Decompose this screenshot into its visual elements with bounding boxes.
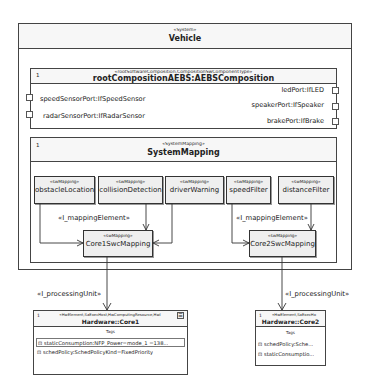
collapse-icon[interactable]: ☰ bbox=[177, 312, 184, 319]
tag-row[interactable]: ⊡ staticConsumptio... bbox=[258, 350, 323, 359]
hardware-core2-stereotype: «HwElement,SaExecHo bbox=[265, 313, 323, 317]
tag-icon: ⊡ bbox=[258, 341, 262, 347]
tag-static-consumption: staticConsumption:NFP_Power=mode_1 =138.… bbox=[44, 340, 168, 346]
tag-icon: ⊡ bbox=[38, 340, 42, 346]
hardware-core2-header: 1 «HwElement,SaExecHo Hardware::Core2 bbox=[256, 311, 325, 327]
tag-sched-policy: schedPolicy:SchedPolicyKind=FixedPriorit… bbox=[43, 349, 153, 355]
hardware-core1[interactable]: 1 «HwElement,SaExecHost,HwComputingResou… bbox=[33, 310, 188, 375]
tag-icon: ⊡ bbox=[258, 351, 262, 357]
tag-row[interactable]: ⊡ schedPolicy:SchedPolicyKind=FixedPrior… bbox=[36, 348, 185, 357]
tag-sched-policy: schedPolicy:Sche... bbox=[264, 341, 313, 347]
tag-static-consumption: staticConsumptio... bbox=[264, 351, 314, 357]
tag-row[interactable]: ⊡ schedPolicy:Sche... bbox=[258, 340, 323, 349]
hardware-core1-title: Hardware::Core1 bbox=[34, 319, 187, 325]
multiplicity: 1 bbox=[37, 313, 40, 318]
hardware-core2[interactable]: 1 «HwElement,SaExecHo Hardware::Core2 Ta… bbox=[255, 310, 326, 366]
hardware-core2-title: Hardware::Core2 bbox=[256, 319, 325, 325]
tags-label: Tags bbox=[34, 330, 187, 334]
tag-icon: ⊡ bbox=[37, 349, 41, 355]
hardware-core1-header: 1 «HwElement,SaExecHost,HwComputingResou… bbox=[34, 311, 187, 327]
tag-row-selected[interactable]: ⊡ staticConsumption:NFP_Power=mode_1 =13… bbox=[36, 338, 185, 347]
tags-label: Tags bbox=[256, 331, 325, 335]
hardware-core1-stereotype: «HwElement,SaExecHost,HwComputingResourc… bbox=[44, 313, 176, 317]
